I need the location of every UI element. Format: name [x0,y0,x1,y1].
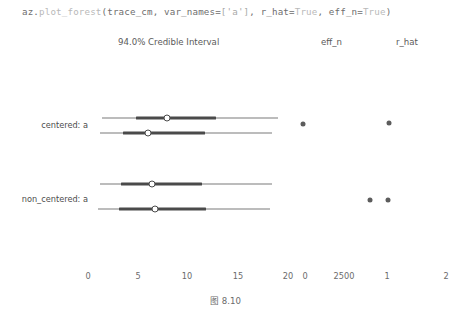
x-tick-label: 0 [302,271,307,281]
point-estimate-marker [149,181,156,188]
x-tick-label: 1 [384,271,389,281]
y-axis-label: centered: a [41,120,88,130]
x-tick-label: 2500 [334,271,355,281]
hdi-50-line [136,117,216,120]
point-estimate-marker [145,130,152,137]
point-estimate-marker [164,115,171,122]
figure-caption: 图 8.10 [0,294,451,306]
x-tick-label: 20 [283,271,293,281]
panel-title-credible-interval: 94.0% Credible Interval [118,37,219,47]
point-estimate-marker [152,206,159,213]
x-tick-label: 15 [233,271,243,281]
eff-n-dot [368,198,373,203]
eff-n-dot [386,198,391,203]
forest-plot: 94.0% Credible Interval eff_n r_hat cent… [0,0,451,317]
x-tick-label: 10 [182,271,192,281]
hdi-50-line [121,183,202,186]
eff-n-dot [301,122,306,127]
r-hat-dot [387,121,392,126]
panel-title-r-hat: r_hat [396,37,418,47]
hdi-50-line [119,208,206,211]
x-tick-label: 0 [85,271,90,281]
x-tick-label: 5 [135,271,140,281]
x-tick-label: 2 [443,271,448,281]
panel-title-eff-n: eff_n [321,37,342,47]
hdi-50-line [123,132,205,135]
y-axis-label: non_centered: a [22,194,88,204]
